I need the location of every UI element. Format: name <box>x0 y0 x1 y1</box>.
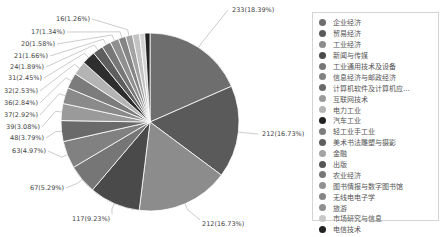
legend-marker-icon <box>319 84 326 91</box>
legend-marker-icon <box>319 95 326 102</box>
leader-line <box>112 204 114 214</box>
legend-label: 美术书法雕塑与摄影 <box>333 137 396 147</box>
legend-item[interactable]: 出版 <box>319 159 438 170</box>
legend-item[interactable]: 新闻与传媒 <box>319 50 438 61</box>
leader-line <box>199 10 228 47</box>
legend-marker-icon <box>319 41 326 48</box>
leader-line <box>67 32 122 38</box>
legend: 企业经济贸易经济工业经济新闻与传媒工业通用技术及设备信息经济与邮政经济计算机软件… <box>312 12 439 221</box>
slice-label: 37(2.92%) <box>4 111 38 119</box>
slice-label: 67(5.29%) <box>30 184 64 192</box>
legend-item[interactable]: 图书情报与数字图书馆 <box>319 180 438 191</box>
legend-marker-icon <box>319 117 326 124</box>
leader-line <box>92 19 129 36</box>
legend-label: 无线电电子学 <box>333 192 375 202</box>
legend-marker-icon <box>319 52 326 59</box>
legend-item[interactable]: 信息经济与邮政经济 <box>319 71 438 82</box>
slice-label: 24(1.89%) <box>10 63 44 71</box>
legend-item[interactable]: 企业经济 <box>319 17 438 28</box>
legend-marker-icon <box>319 161 326 168</box>
legend-item[interactable]: 工业通用技术及设备 <box>319 61 438 72</box>
legend-item[interactable]: 工业经济 <box>319 39 438 50</box>
legend-label: 贸易经济 <box>333 28 361 38</box>
legend-marker-icon <box>319 150 326 157</box>
legend-marker-icon <box>319 63 326 70</box>
legend-item[interactable]: 市场研究与信息 <box>319 213 438 224</box>
legend-item[interactable]: 汽车工业 <box>319 115 438 126</box>
legend-label: 电力工业 <box>333 105 361 115</box>
slice-label: 32(2.53%) <box>4 87 38 95</box>
legend-label: 新闻与传媒 <box>333 50 368 60</box>
leader-line <box>42 111 62 127</box>
leader-line <box>185 204 200 220</box>
legend-label: 金融 <box>333 148 347 158</box>
legend-label: 电信技术 <box>333 224 361 234</box>
slice-label: 117(9.23%) <box>72 215 110 223</box>
legend-item[interactable]: 轻工业手工业 <box>319 126 438 137</box>
legend-label: 农业经济 <box>333 170 361 180</box>
legend-label: 汽车工业 <box>333 115 361 125</box>
legend-item[interactable]: 互联网技术 <box>319 93 438 104</box>
slice-label: 212(16.73%) <box>262 130 304 138</box>
legend-item[interactable]: 旅游 <box>319 202 438 213</box>
slice-label: 20(1.58%) <box>21 40 55 48</box>
legend-label: 工业通用技术及设备 <box>333 61 396 71</box>
legend-label: 互联网技术 <box>333 94 368 104</box>
slice-label: 212(16.73%) <box>202 220 244 228</box>
legend-item[interactable]: 计算机软件及计算机应... <box>319 82 438 93</box>
legend-marker-icon <box>319 226 326 233</box>
legend-label: 工业经济 <box>333 39 361 49</box>
legend-marker-icon <box>319 215 326 222</box>
legend-item[interactable]: 贸易经济 <box>319 28 438 39</box>
slice-label: 48(3.79%) <box>10 134 44 142</box>
legend-label: 信息经济与邮政经济 <box>333 72 396 82</box>
legend-item[interactable]: 农业经济 <box>319 169 438 180</box>
slice-label: 233(18.39%) <box>232 6 274 14</box>
slice-label: 16(1.26%) <box>56 15 90 23</box>
legend-label: 轻工业手工业 <box>333 126 375 136</box>
leader-line <box>238 132 258 134</box>
slice-label: 31(2.45%) <box>8 74 42 82</box>
legend-label: 旅游 <box>333 203 347 213</box>
legend-marker-icon <box>319 171 326 178</box>
legend-item[interactable]: 无线电电子学 <box>319 191 438 202</box>
legend-item[interactable]: 电力工业 <box>319 104 438 115</box>
legend-marker-icon <box>319 193 326 200</box>
legend-marker-icon <box>319 204 326 211</box>
leader-line <box>48 151 67 157</box>
legend-marker-icon <box>319 73 326 80</box>
legend-label: 企业经济 <box>333 17 361 27</box>
legend-label: 图书情报与数字图书馆 <box>333 181 403 191</box>
legend-marker-icon <box>319 139 326 146</box>
legend-marker-icon <box>319 19 326 26</box>
leader-line <box>46 131 61 138</box>
slice-label: 63(4.97%) <box>12 147 46 155</box>
leader-line <box>57 35 114 44</box>
legend-item[interactable]: 电信技术 <box>319 224 438 235</box>
legend-item[interactable]: 金融 <box>319 148 438 159</box>
pie-slices <box>61 33 239 211</box>
slice-label: 17(1.34%) <box>31 28 65 36</box>
slice-label: 36(2.84%) <box>4 99 38 107</box>
legend-marker-icon <box>319 30 326 37</box>
legend-marker-icon <box>319 128 326 135</box>
legend-label: 出版 <box>333 159 347 169</box>
legend-label: 市场研究与信息 <box>333 213 382 223</box>
slice-label: 39(3.08%) <box>6 123 40 131</box>
slice-label: 21(1.66%) <box>14 52 48 60</box>
legend-marker-icon <box>319 182 326 189</box>
legend-label: 计算机软件及计算机应... <box>333 83 410 93</box>
legend-marker-icon <box>319 106 326 113</box>
legend-item[interactable]: 美术书法雕塑与摄影 <box>319 137 438 148</box>
leader-line <box>66 179 82 188</box>
